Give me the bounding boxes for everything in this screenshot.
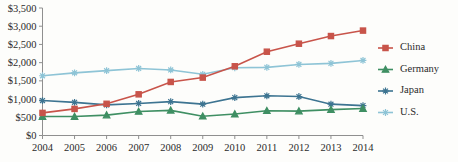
marker-asterisk (39, 97, 46, 104)
marker-asterisk (231, 94, 238, 101)
x-tick-label: 2010 (224, 142, 245, 153)
x-tick-label: 2008 (160, 142, 181, 153)
y-tick-label: $500 (16, 112, 37, 123)
x-tick-label: 2005 (64, 142, 85, 153)
marker-asterisk (296, 93, 303, 100)
marker-asterisk (135, 65, 142, 72)
marker-triangle (382, 66, 388, 72)
legend-item-germany[interactable]: Germany (378, 63, 440, 74)
marker-asterisk (360, 57, 367, 64)
x-tick-label: 2004 (32, 142, 54, 153)
legend-item-japan[interactable]: Japan (378, 84, 425, 95)
marker-triangle (103, 112, 109, 118)
x-tick-label: 2014 (353, 142, 375, 153)
marker-square (200, 75, 205, 80)
marker-square (296, 41, 301, 46)
marker-asterisk (39, 72, 46, 79)
marker-triangle (168, 107, 174, 113)
marker-square (72, 106, 77, 111)
line-chart: $0$500$1,000$1,500$2,000$2,500$3,000$3,5… (0, 0, 458, 162)
legend-label: Japan (400, 84, 425, 95)
x-tick-label: 2007 (128, 142, 149, 153)
marker-triangle (135, 108, 141, 114)
marker-asterisk (296, 61, 303, 68)
x-tick-label: 2006 (96, 142, 117, 153)
legend-item-china[interactable]: China (378, 41, 425, 52)
marker-square (40, 110, 45, 115)
y-tick-label: $1,500 (8, 75, 37, 86)
legend-item-us[interactable]: U.S. (378, 106, 419, 117)
x-tick-label: 2011 (257, 142, 278, 153)
marker-asterisk (71, 99, 78, 106)
x-tick-label: 2012 (288, 142, 309, 153)
marker-triangle (71, 113, 77, 119)
marker-asterisk (263, 64, 270, 71)
y-tick-label: $2,000 (8, 57, 37, 68)
x-tick-label: 2013 (320, 142, 341, 153)
marker-asterisk (263, 92, 270, 99)
marker-square (383, 45, 388, 50)
chart-plot-area: $0$500$1,000$1,500$2,000$2,500$3,000$3,5… (0, 0, 458, 162)
legend-label: U.S. (400, 106, 419, 117)
legend-label: Germany (400, 63, 440, 74)
y-tick-label: $3,500 (8, 3, 37, 14)
marker-asterisk (71, 69, 78, 76)
marker-asterisk (103, 67, 110, 74)
marker-triangle (328, 106, 334, 112)
marker-asterisk (328, 60, 335, 67)
marker-square (104, 101, 109, 106)
marker-triangle (264, 108, 270, 114)
marker-square (168, 79, 173, 84)
marker-square (232, 64, 237, 69)
marker-triangle (296, 108, 302, 114)
x-tick-label: 2009 (192, 142, 213, 153)
y-tick-label: $0 (26, 130, 37, 141)
legend-label: China (400, 41, 425, 52)
marker-triangle (200, 113, 206, 119)
marker-asterisk (382, 109, 389, 116)
marker-asterisk (135, 100, 142, 107)
marker-asterisk (199, 101, 206, 108)
y-tick-label: $3,000 (8, 21, 37, 32)
y-tick-label: $1,000 (8, 94, 37, 105)
marker-square (264, 49, 269, 54)
marker-asterisk (167, 67, 174, 74)
marker-square (360, 28, 365, 33)
marker-square (136, 92, 141, 97)
y-tick-label: $2,500 (8, 39, 37, 50)
marker-asterisk (382, 88, 389, 95)
marker-square (328, 33, 333, 38)
marker-triangle (232, 111, 238, 117)
marker-asterisk (167, 98, 174, 105)
